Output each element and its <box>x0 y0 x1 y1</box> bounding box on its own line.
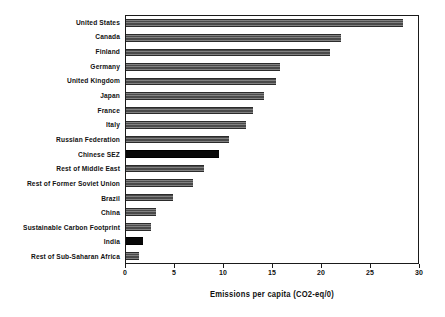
bar-row <box>126 31 418 46</box>
x-tick-label: 10 <box>219 269 227 277</box>
tick-mark <box>370 264 371 268</box>
bar-row <box>126 89 418 104</box>
category-label: Rest of Former Soviet Union <box>27 179 122 187</box>
bar-chart: United StatesCanadaFinlandGermanyUnited … <box>0 0 445 317</box>
category-label: United Kingdom <box>67 77 122 85</box>
category-label: India <box>104 238 122 246</box>
tick-mark <box>419 264 420 268</box>
bar <box>126 92 264 100</box>
bar-row <box>126 45 418 60</box>
category-label: Rest of Sub-Saharan Africa <box>31 253 122 261</box>
bar-row <box>126 103 418 118</box>
bar <box>126 136 229 144</box>
bar <box>126 208 156 216</box>
x-tick-label: 20 <box>317 269 325 277</box>
x-tick-label: 5 <box>172 269 176 277</box>
x-tick-label: 0 <box>123 269 127 277</box>
tick-mark <box>272 264 273 268</box>
category-label: Finland <box>96 48 123 56</box>
bar <box>126 63 280 71</box>
bar-row <box>126 118 418 133</box>
bar-row <box>126 161 418 176</box>
bar <box>126 237 143 245</box>
bars-container <box>126 16 418 263</box>
category-label: Rest of Middle East <box>56 165 122 173</box>
tick-mark <box>125 264 126 268</box>
category-label: Sustainable Carbon Footprint <box>23 223 122 231</box>
bar-row <box>126 176 418 191</box>
bar-row <box>126 60 418 75</box>
bar-row <box>126 219 418 234</box>
bar <box>126 194 173 202</box>
category-label: Russian Federation <box>56 136 122 144</box>
x-tick-label: 30 <box>415 269 423 277</box>
category-label: Chinese SEZ <box>78 150 122 158</box>
bar <box>126 252 139 260</box>
category-label: France <box>97 106 122 114</box>
bar <box>126 107 253 115</box>
category-label: Italy <box>106 121 122 129</box>
tick-mark <box>321 264 322 268</box>
bar <box>126 223 151 231</box>
x-tick-label: 25 <box>366 269 374 277</box>
bar-row <box>126 234 418 249</box>
bar <box>126 19 403 27</box>
category-label: Japan <box>100 92 122 100</box>
category-label: Brazil <box>101 194 122 202</box>
tick-mark <box>223 264 224 268</box>
bar <box>126 78 276 86</box>
category-axis-labels: United StatesCanadaFinlandGermanyUnited … <box>0 15 122 264</box>
bar-row <box>126 147 418 162</box>
bar <box>126 49 330 57</box>
category-label: United States <box>76 18 122 26</box>
bar <box>126 150 219 158</box>
category-label: China <box>101 209 122 217</box>
bar <box>126 165 204 173</box>
category-label: Canada <box>95 33 122 41</box>
bar <box>126 34 341 42</box>
bar-row <box>126 205 418 220</box>
bar-row <box>126 16 418 31</box>
bar-row <box>126 190 418 205</box>
bar <box>126 121 246 129</box>
x-axis-ticks: 051015202530 <box>125 264 419 284</box>
x-axis-title: Emissions per capita (CO2-eq/0) <box>125 290 419 300</box>
tick-mark <box>174 264 175 268</box>
plot-area <box>125 15 419 264</box>
bar-row <box>126 249 418 264</box>
category-label: Germany <box>90 62 122 70</box>
bar-row <box>126 74 418 89</box>
bar <box>126 179 193 187</box>
bar-row <box>126 132 418 147</box>
x-tick-label: 15 <box>268 269 276 277</box>
